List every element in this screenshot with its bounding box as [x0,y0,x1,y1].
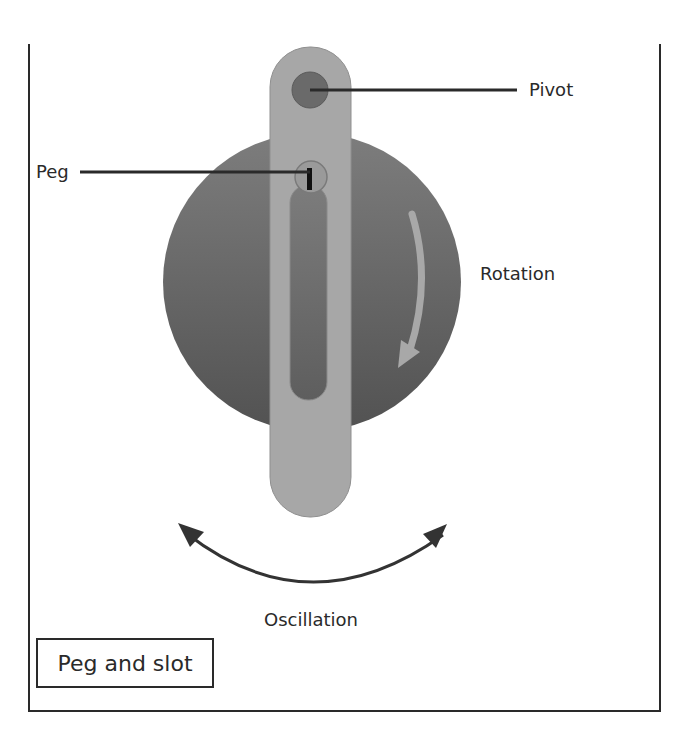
pivot-label: Pivot [529,79,573,100]
peg-label: Peg [36,161,69,182]
oscillation-arrow-icon [178,523,447,582]
diagram-title-box: Peg and slot [36,638,214,688]
slot [290,185,327,400]
oscillation-label: Oscillation [264,609,358,630]
diagram-title: Peg and slot [57,651,192,676]
rotation-label: Rotation [480,263,555,284]
